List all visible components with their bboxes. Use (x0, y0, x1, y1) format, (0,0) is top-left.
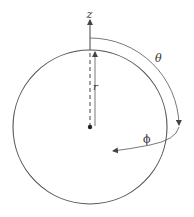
phi-label: ϕ (143, 133, 151, 146)
center-point (88, 125, 92, 129)
z-axis-label: z (86, 8, 93, 21)
radius-label: r (93, 81, 99, 92)
spherical-coordinates-diagram: z r θ ϕ (0, 0, 194, 217)
theta-label: θ (155, 52, 162, 65)
